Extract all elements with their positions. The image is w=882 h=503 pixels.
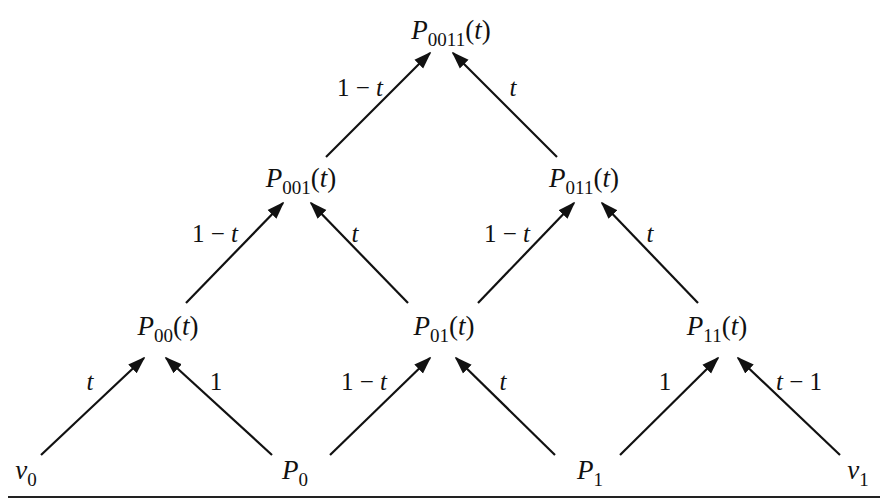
edge-weight-label: 1 − t (337, 74, 383, 102)
node-subscript: 01 (430, 325, 449, 346)
edge-weight-label: 1 − t (341, 368, 387, 396)
node-p01: P01(t) (413, 311, 474, 342)
node-letter: P (266, 163, 283, 193)
node-subscript: 1 (594, 469, 604, 490)
node-letter: P (282, 455, 299, 485)
node-argument: (t) (173, 311, 199, 341)
edge-weight-label: t (352, 220, 359, 248)
node-letter: v (847, 455, 859, 485)
node-v1: v1 (847, 455, 868, 486)
edge-weight-label: t (500, 368, 507, 396)
node-v0: v0 (15, 455, 36, 486)
node-argument: (t) (465, 15, 491, 45)
node-subscript: 00 (154, 325, 173, 346)
node-argument: (t) (311, 163, 337, 193)
edge-weight-label: 1 − t (484, 220, 530, 248)
node-subscript: 1 (859, 469, 869, 490)
edge-weight-label: t (647, 220, 654, 248)
arrow-p001-to-p0011 (326, 53, 430, 157)
node-p1: P1 (577, 455, 603, 486)
node-argument: (t) (722, 311, 748, 341)
arrow-p01-to-p001 (311, 203, 408, 303)
node-letter: P (411, 15, 428, 45)
node-p0: P0 (282, 455, 308, 486)
edge-weight-label: t (510, 74, 517, 102)
node-letter: P (687, 311, 704, 341)
node-letter: P (577, 455, 594, 485)
node-p00: P00(t) (137, 311, 198, 342)
node-p001: P001(t) (266, 163, 337, 194)
node-subscript: 0011 (428, 29, 465, 50)
node-subscript: 11 (703, 325, 721, 346)
node-p011: P011(t) (549, 163, 619, 194)
edge-weight-label: 1 (659, 368, 672, 396)
node-p0011: P0011(t) (411, 15, 490, 46)
node-subscript: 0 (27, 469, 37, 490)
node-letter: P (137, 311, 154, 341)
node-argument: (t) (593, 163, 619, 193)
edge-weight-label: 1 − t (192, 220, 238, 248)
node-letter: v (15, 455, 27, 485)
node-subscript: 0 (299, 469, 309, 490)
arrow-p011-to-p0011 (453, 53, 557, 157)
bottom-rule (8, 496, 880, 498)
edge-weight-label: t − 1 (776, 368, 822, 396)
node-p11: P11(t) (687, 311, 747, 342)
edge-weight-label: t (87, 368, 94, 396)
arrow-p11-to-p011 (602, 203, 698, 303)
node-subscript: 011 (566, 177, 594, 198)
arrow-p01-to-p011 (478, 203, 574, 303)
node-subscript: 001 (282, 177, 311, 198)
edge-weight-label: 1 (210, 368, 223, 396)
diagram-edges (0, 0, 882, 503)
arrow-p00-to-p001 (186, 203, 283, 303)
node-letter: P (413, 311, 430, 341)
node-argument: (t) (449, 311, 475, 341)
node-letter: P (549, 163, 566, 193)
